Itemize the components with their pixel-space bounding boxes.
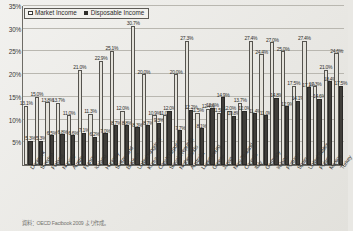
bar-value-label: 13.1% — [20, 101, 33, 106]
bar-group: 13.1%5.3% — [23, 106, 34, 166]
bar-value-label: 20.0% — [170, 70, 183, 75]
bar-group: 22.9%7.0% — [98, 61, 109, 165]
bar-value-label: 12.0% — [116, 106, 129, 111]
y-axis-tick-label: 20% — [9, 71, 21, 78]
bar-group: 21.0%7.1% — [77, 70, 88, 165]
bar-group: 24.4%11.0% — [258, 54, 269, 165]
bar-disp-united-states: 17.1% — [307, 87, 311, 165]
y-axis-tick-label: 10% — [9, 116, 21, 123]
bar-value-label: 30.7% — [127, 21, 140, 26]
bar-value-label: 24.6% — [330, 49, 343, 54]
bar-value-label: 13.7% — [234, 98, 247, 103]
y-axis-tick-label: 25% — [9, 48, 21, 55]
bar-value-label: 25.1% — [105, 46, 118, 51]
bar-value-label: 27.3% — [180, 36, 193, 41]
bar-group: 27.0%14.8% — [269, 42, 280, 165]
bar-disp-mexico: 18.4% — [328, 81, 332, 165]
bar-value-label: 17.3% — [309, 82, 322, 87]
bar-value-label: 27.0% — [266, 38, 279, 43]
bar-value-label: 25.0% — [277, 47, 290, 52]
bar-value-label: 14.9% — [217, 93, 230, 98]
bar-value-label: 17.5% — [334, 81, 347, 86]
bar-value-label: 21.0% — [73, 65, 86, 70]
bar-series-container: 13.1%5.3%15.0%5.3%13.8%6.5%13.7%6.8%11.0… — [23, 6, 344, 165]
bar-group: 24.6%17.5% — [333, 53, 344, 165]
bar-value-label: 17.5% — [287, 81, 300, 86]
plot-area: 5%10%15%20%25%30%35% 13.1%5.3%15.0%5.3%1… — [22, 6, 344, 166]
bar-group: 27.4%17.1% — [301, 41, 312, 165]
bar-value-label: 20.0% — [138, 70, 151, 75]
bar-value-label: 24.4% — [255, 50, 268, 55]
bar-group: 30.7%8.3% — [130, 26, 141, 165]
bar-value-label: 27.4% — [298, 36, 311, 41]
bar-group: 25.0%12.9% — [280, 51, 291, 165]
bar-disp-turkey: 17.5% — [339, 86, 343, 166]
y-axis-tick-label: 35% — [9, 3, 21, 10]
y-axis-tick-label: 5% — [12, 139, 21, 146]
bar-value-label: 13.7% — [52, 98, 65, 103]
bar-disp-germany: 11.0% — [264, 115, 268, 165]
bar-value-label: 11.3% — [84, 109, 96, 114]
bar-value-label: 21.0% — [319, 65, 332, 70]
x-axis-category-labels: DenmarkSwedenFinlandNorwayAustriaFranceI… — [22, 167, 344, 217]
bar-value-label: 27.4% — [245, 36, 258, 41]
bar-value-label: 22.9% — [95, 56, 108, 61]
bar-value-label: 11.0% — [63, 111, 75, 116]
y-axis-tick-label: 30% — [9, 25, 21, 32]
source-note: 資料：OECD Factbook 2009 より作成。 — [22, 219, 322, 226]
